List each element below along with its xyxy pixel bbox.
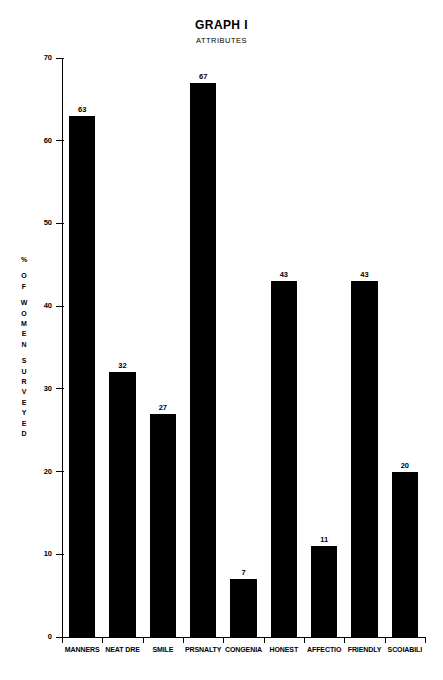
y-axis-title-char: E [17,329,31,339]
bar[interactable] [230,579,257,637]
bar-group[interactable]: 27 [150,58,177,637]
bar[interactable] [392,472,419,637]
chart-subtitle: ATTRIBUTES [0,36,443,45]
y-axis-tick-label: 60 [0,136,52,145]
y-axis-title: %OFWOMENSURVEYED [17,255,31,440]
bar-group[interactable]: 43 [271,58,298,637]
bar-value-label: 11 [303,535,346,544]
plot-area: 63322767743114320 [62,58,425,637]
y-axis-tick-label: 50 [0,218,52,227]
y-axis-title-char: E [17,398,31,408]
bar[interactable] [150,414,177,637]
bar-value-label: 67 [182,72,225,81]
x-axis-tick-mark [143,637,144,643]
bar[interactable] [109,372,136,637]
x-axis-tick-mark [223,637,224,643]
y-axis-title-char: S [17,356,31,366]
x-axis-tick-mark [62,637,63,643]
y-axis-title-char: N [17,340,31,350]
x-axis-tick-mark [183,637,184,643]
x-axis-tick-mark [344,637,345,643]
x-axis-category-label: SCOIABILI [379,646,431,653]
bar[interactable] [190,83,217,637]
bar-group[interactable]: 20 [392,58,419,637]
y-axis-title-char: O [17,309,31,319]
y-axis-tick-label: 0 [0,632,52,641]
bar[interactable] [311,546,338,637]
y-axis-tick-label: 40 [0,301,52,310]
bar-group[interactable]: 67 [190,58,217,637]
x-axis-tick-mark [385,637,386,643]
x-axis-tick-mark [425,637,426,643]
x-axis-tick-mark [264,637,265,643]
bar[interactable] [69,116,96,637]
bar-value-label: 27 [142,403,185,412]
y-axis-title-char: % [17,255,31,265]
bar[interactable] [351,281,378,637]
y-axis-title-char: M [17,319,31,329]
bar-group[interactable]: 11 [311,58,338,637]
y-axis-title-char: O [17,271,31,281]
bar-group[interactable]: 43 [351,58,378,637]
bar-group[interactable]: 32 [109,58,136,637]
bar[interactable] [271,281,298,637]
bar-value-label: 20 [384,461,427,470]
y-axis-title-char: U [17,367,31,377]
bar-group[interactable]: 7 [230,58,257,637]
bar-value-label: 63 [61,105,104,114]
y-axis-title-char: D [17,429,31,439]
x-axis-tick-mark [304,637,305,643]
y-axis-tick-label: 70 [0,53,52,62]
bar-value-label: 43 [263,270,306,279]
chart-title: GRAPH I [0,18,443,32]
bar-group[interactable]: 63 [69,58,96,637]
bar-value-label: 43 [343,270,386,279]
y-axis-tick-label: 10 [0,549,52,558]
x-axis-tick-mark [102,637,103,643]
bar-value-label: 32 [101,361,144,370]
y-axis-title-char: F [17,282,31,292]
y-axis-title-char: Y [17,408,31,418]
bar-value-label: 7 [222,568,265,577]
y-axis-title-char: E [17,419,31,429]
y-axis-tick-label: 20 [0,467,52,476]
x-axis-line [62,637,425,638]
y-axis-tick-label: 30 [0,384,52,393]
